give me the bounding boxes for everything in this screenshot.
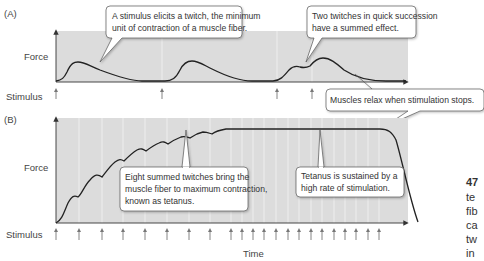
caption-line: in bbox=[466, 247, 475, 259]
callout-summation-line1: Two twitches in quick succession bbox=[312, 11, 438, 21]
panel-a-y-label: Force bbox=[24, 51, 48, 62]
panel-b-stimulus-arrows bbox=[54, 228, 381, 240]
arrowhead-icon bbox=[286, 228, 290, 232]
panel-a: (A) Force Stimulus A stimulus elicits a … bbox=[4, 6, 484, 127]
arrowhead-icon bbox=[54, 228, 58, 232]
panel-a-plot-area bbox=[56, 31, 204, 82]
arrowhead-icon bbox=[54, 88, 58, 92]
arrowhead-icon bbox=[377, 228, 381, 232]
arrowhead-icon bbox=[262, 228, 266, 232]
figure-number: 47 bbox=[466, 176, 478, 188]
arrowhead-icon bbox=[309, 228, 313, 232]
muscle-twitch-diagram: (A) Force Stimulus A stimulus elicits a … bbox=[0, 0, 484, 261]
caption-line: tw bbox=[466, 233, 477, 245]
arrowhead-icon bbox=[275, 88, 279, 92]
panel-a-label: (A) bbox=[4, 8, 17, 19]
callout-twitch-line1: A stimulus elicits a twitch, the minimum bbox=[112, 11, 261, 21]
arrowhead-icon bbox=[77, 228, 81, 232]
panel-b-label: (B) bbox=[4, 114, 17, 125]
arrowhead-icon bbox=[310, 88, 314, 92]
callout-summation-line2: have a summed effect. bbox=[312, 23, 399, 33]
x-axis-label-time: Time bbox=[243, 248, 264, 259]
arrowhead-icon bbox=[165, 228, 169, 232]
panel-a-stimulus-label: Stimulus bbox=[6, 91, 43, 102]
arrowhead-icon bbox=[100, 228, 104, 232]
callout-tetanus-line2: high rate of stimulation. bbox=[301, 183, 390, 193]
callout-eight-twitches-line1: Eight summed twitches bring the bbox=[125, 172, 249, 182]
callout-relax-text: Muscles relax when stimulation stops. bbox=[330, 95, 474, 105]
panel-a-plot-area-right bbox=[204, 31, 408, 82]
arrowhead-icon bbox=[366, 228, 370, 232]
callout-eight-twitches-line3: known as tetanus. bbox=[125, 196, 194, 206]
arrowhead-icon bbox=[297, 228, 301, 232]
arrowhead-icon bbox=[143, 228, 147, 232]
arrowhead-icon bbox=[240, 228, 244, 232]
callout-twitch-line2: unit of contraction of a muscle fiber. bbox=[112, 23, 247, 33]
arrowhead-icon bbox=[160, 88, 164, 92]
caption-line: ca bbox=[466, 219, 479, 231]
arrowhead-icon bbox=[343, 228, 347, 232]
arrowhead-icon bbox=[354, 228, 358, 232]
callout-eight-twitches-line2: muscle fiber to maximum contraction, bbox=[125, 184, 267, 194]
panel-a-stimulus-arrows bbox=[54, 88, 314, 99]
caption-line: te bbox=[466, 191, 475, 203]
arrowhead-icon bbox=[208, 228, 212, 232]
arrowhead-icon bbox=[274, 228, 278, 232]
callout-tetanus-line1: Tetanus is sustained by a bbox=[301, 171, 398, 181]
arrowhead-icon bbox=[121, 228, 125, 232]
arrowhead-icon bbox=[251, 228, 255, 232]
panel-b-stimulus-label: Stimulus bbox=[6, 229, 43, 240]
arrowhead-icon bbox=[229, 228, 233, 232]
panel-b-y-label: Force bbox=[24, 162, 48, 173]
arrowhead-icon bbox=[332, 228, 336, 232]
caption-line: fib bbox=[466, 205, 478, 217]
arrowhead-icon bbox=[187, 228, 191, 232]
panel-b: (B) Force Stimulus Time Eight summed twi… bbox=[4, 114, 418, 259]
side-caption: 47 te fib ca tw in bbox=[466, 176, 479, 259]
arrowhead-icon bbox=[320, 228, 324, 232]
